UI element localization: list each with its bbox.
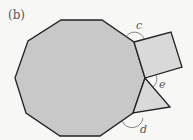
geometry-figure: (b) c e d: [0, 0, 193, 140]
decagon-shape: [15, 20, 145, 136]
angle-e-arc: [153, 75, 157, 87]
figure-label: (b): [8, 8, 25, 22]
angle-c-label: c: [136, 19, 142, 32]
angle-d-label: d: [140, 123, 147, 136]
diagram-root: (b) c e d: [0, 0, 193, 140]
angle-e-label: e: [159, 78, 166, 91]
